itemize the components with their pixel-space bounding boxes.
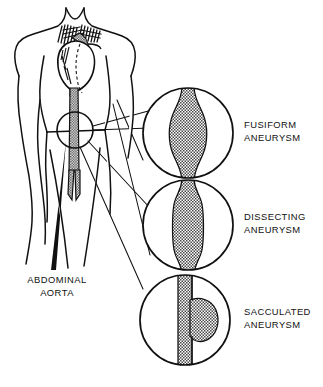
label-fusiform-line2: ANEURYSM — [244, 132, 301, 143]
label-dissecting-line2: ANEURYSM — [244, 224, 301, 235]
label-abdominal-aorta-line2: AORTA — [40, 287, 74, 298]
label-sacculated-line2: ANEURYSM — [244, 319, 301, 330]
aortic-aneurysm-figure: FUSIFORM ANEURYSM DISSECTING ANEURYSM SA… — [0, 0, 323, 387]
aneurysm-illustration: FUSIFORM ANEURYSM DISSECTING ANEURYSM SA… — [0, 0, 323, 387]
label-sacculated-line1: SACCULATED — [244, 306, 311, 317]
aorta-trunk — [69, 88, 79, 172]
label-abdominal-aorta-line1: ABDOMINAL — [27, 274, 86, 285]
label-dissecting-line1: DISSECTING — [244, 211, 306, 222]
label-fusiform-line1: FUSIFORM — [244, 119, 297, 130]
right-common-iliac — [75, 170, 80, 200]
